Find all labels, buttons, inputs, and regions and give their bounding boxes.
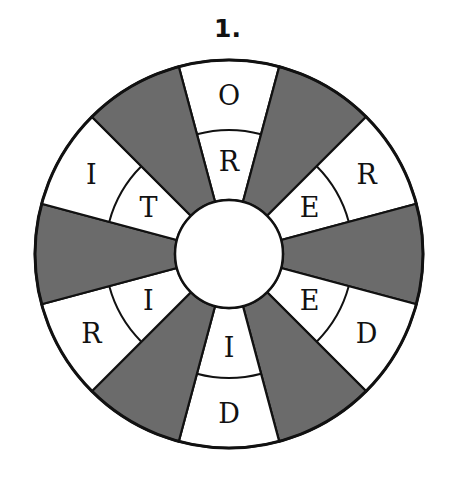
middle-ring-letter: I — [224, 332, 235, 363]
outer-ring-letter: D — [356, 318, 378, 349]
outer-ring-letter: R — [81, 318, 102, 349]
outer-ring-letter: I — [86, 159, 97, 190]
middle-ring-letter: R — [219, 146, 240, 177]
outer-ring-letter: O — [218, 80, 240, 111]
outer-ring-letter: R — [357, 159, 378, 190]
word-wheel: ORREDEDIRIIT — [0, 0, 455, 477]
middle-ring-letter: E — [300, 285, 320, 316]
middle-ring-letter: T — [139, 192, 157, 223]
center-hub — [175, 200, 283, 308]
outer-ring-letter: D — [218, 398, 240, 429]
middle-ring-letter: I — [143, 285, 154, 316]
middle-ring-letter: E — [300, 192, 320, 223]
